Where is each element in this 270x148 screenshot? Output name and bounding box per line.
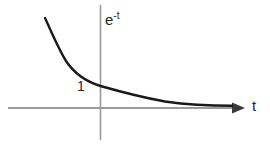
y-axis-label-exponent: -t [113, 10, 119, 21]
plot-canvas [0, 0, 270, 148]
exponential-decay-figure: t e-t 1 [0, 0, 270, 148]
y-axis-label: e-t [105, 12, 119, 27]
exponential-decay-curve [45, 18, 232, 106]
x-axis-arrowhead [232, 103, 245, 114]
x-axis-label: t [252, 98, 256, 113]
origin-value-label: 1 [77, 79, 85, 93]
